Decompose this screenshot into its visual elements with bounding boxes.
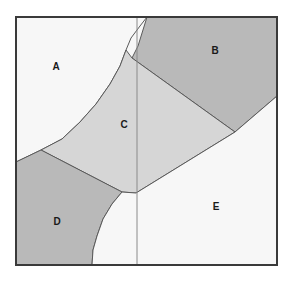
region-label-a: A [52,61,59,72]
region-label-b: B [211,45,218,56]
region-partition-diagram: ABCDE [0,0,291,282]
region-label-c: C [120,119,127,130]
region-label-d: D [53,216,60,227]
diagram-canvas: ABCDE [0,0,291,282]
regions-layer [16,17,277,265]
region-label-e: E [213,201,220,212]
